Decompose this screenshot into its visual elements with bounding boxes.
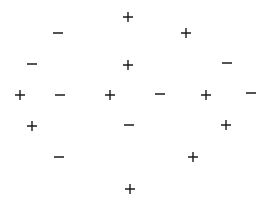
minus-sign-icon — [124, 120, 135, 131]
plus-sign-icon — [201, 90, 212, 101]
minus-sign-icon — [53, 28, 64, 39]
minus-sign-icon — [155, 89, 166, 100]
plus-sign-icon — [125, 184, 136, 195]
plus-sign-icon — [27, 121, 38, 132]
minus-sign-icon — [222, 58, 233, 69]
plus-sign-icon — [123, 60, 134, 71]
plus-sign-icon — [181, 28, 192, 39]
minus-sign-icon — [27, 59, 38, 70]
minus-sign-icon — [54, 152, 65, 163]
sign-diagram — [0, 0, 266, 200]
minus-sign-icon — [246, 88, 257, 99]
plus-sign-icon — [105, 90, 116, 101]
minus-sign-icon — [55, 90, 66, 101]
plus-sign-icon — [123, 12, 134, 23]
plus-sign-icon — [221, 120, 232, 131]
plus-sign-icon — [15, 90, 26, 101]
plus-sign-icon — [188, 152, 199, 163]
